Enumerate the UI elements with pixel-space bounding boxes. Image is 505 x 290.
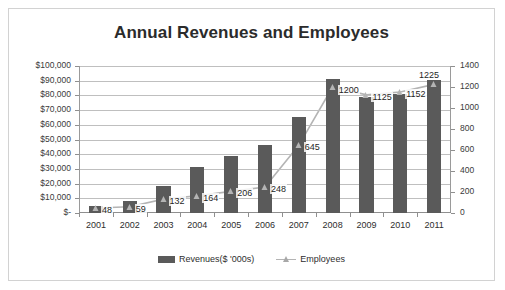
y-axis-label-right: 400 [460, 165, 474, 175]
chart-title: Annual Revenues and Employees [9, 23, 494, 43]
y-axis-label-right: 800 [460, 123, 474, 133]
y-axis-label-left: $- [13, 207, 71, 217]
x-axis-tick [282, 213, 283, 217]
x-axis-tick [316, 213, 317, 217]
x-axis-tick [383, 213, 384, 217]
y-axis-label-left: $90,000 [13, 75, 71, 85]
employees-data-label-2006: 248 [270, 184, 287, 194]
bar-2005[interactable] [224, 156, 238, 213]
y-axis-label-right: 1200 [460, 81, 479, 91]
bar-2011[interactable] [427, 80, 441, 213]
chart-legend: Revenues($ '000s) Employees [9, 254, 494, 264]
bar-2010[interactable] [393, 94, 407, 213]
x-axis-tick [147, 213, 148, 217]
x-axis-tick [350, 213, 351, 217]
y-axis-label-right: 1000 [460, 102, 479, 112]
bar-2008[interactable] [326, 79, 340, 213]
gridline [79, 81, 451, 82]
gridline [79, 66, 451, 67]
x-axis-label-2007: 2007 [282, 220, 316, 230]
employees-marker-2004[interactable] [194, 193, 200, 199]
value-axis-right [450, 66, 451, 213]
x-axis-tick [417, 213, 418, 217]
x-axis-label-2005: 2005 [214, 220, 248, 230]
x-axis-tick [248, 213, 249, 217]
bar-2009[interactable] [359, 97, 373, 213]
employees-marker-2005[interactable] [228, 188, 234, 194]
employees-data-label-2004: 164 [202, 193, 219, 203]
employees-data-label-2003: 132 [169, 196, 186, 206]
y-axis-tick-right [451, 192, 455, 193]
legend-label-revenues: Revenues($ '000s) [179, 254, 254, 264]
y-axis-label-left: $50,000 [13, 134, 71, 144]
y-axis-tick-right [451, 150, 455, 151]
x-axis-label-2002: 2002 [113, 220, 147, 230]
x-axis-tick [180, 213, 181, 217]
y-axis-label-left: $80,000 [13, 89, 71, 99]
legend-label-employees: Employees [300, 254, 345, 264]
employees-data-label-2007: 645 [304, 142, 321, 152]
y-axis-label-left: $60,000 [13, 119, 71, 129]
x-axis-label-2010: 2010 [383, 220, 417, 230]
value-axis-left [79, 66, 80, 213]
plot-area: $-$10,000$20,000$30,000$40,000$50,000$60… [79, 66, 451, 213]
bar-swatch-icon [158, 256, 175, 263]
bar-2006[interactable] [258, 145, 272, 213]
employees-data-label-2010: 1152 [405, 89, 426, 99]
y-axis-tick-right [451, 66, 455, 67]
x-axis-label-2001: 2001 [79, 220, 113, 230]
employees-marker-2010[interactable] [397, 89, 403, 95]
y-axis-label-right: 200 [460, 186, 474, 196]
employees-marker-2003[interactable] [160, 196, 166, 202]
bar-2007[interactable] [292, 117, 306, 213]
y-axis-label-left: $10,000 [13, 192, 71, 202]
y-axis-label-left: $30,000 [13, 163, 71, 173]
employees-data-label-2001: 48 [101, 205, 113, 215]
employees-data-label-2002: 59 [135, 204, 147, 214]
y-axis-label-right: 0 [460, 207, 465, 217]
employees-data-label-2009: 1125 [371, 92, 392, 102]
x-axis-label-2008: 2008 [316, 220, 350, 230]
employees-marker-2002[interactable] [126, 204, 132, 210]
x-axis-label-2009: 2009 [350, 220, 384, 230]
y-axis-label-left: $40,000 [13, 148, 71, 158]
y-axis-label-right: 600 [460, 144, 474, 154]
employees-marker-2009[interactable] [363, 92, 369, 98]
x-axis-tick [113, 213, 114, 217]
employees-data-label-2008: 1200 [338, 85, 360, 95]
y-axis-tick-right [451, 129, 455, 130]
employees-marker-2011[interactable] [431, 81, 437, 87]
y-axis-label-left: $70,000 [13, 104, 71, 114]
y-axis-label-left: $20,000 [13, 178, 71, 188]
y-axis-tick-right [451, 87, 455, 88]
employees-marker-2006[interactable] [262, 184, 268, 190]
employees-data-label-2005: 206 [236, 188, 253, 198]
x-axis-label-2011: 2011 [417, 220, 451, 230]
bar-2004[interactable] [190, 167, 204, 213]
employees-marker-2001[interactable] [92, 205, 98, 211]
y-axis-tick-right [451, 171, 455, 172]
x-axis-label-2006: 2006 [248, 220, 282, 230]
x-axis-tick [79, 213, 80, 217]
y-axis-tick-right [451, 108, 455, 109]
legend-item-employees[interactable]: Employees [276, 254, 345, 264]
employees-marker-2008[interactable] [329, 84, 335, 90]
x-axis-label-2004: 2004 [180, 220, 214, 230]
employees-marker-2007[interactable] [295, 142, 301, 148]
chart-container: Annual Revenues and Employees $-$10,000$… [8, 8, 495, 281]
y-axis-tick-right [451, 213, 455, 214]
y-axis-label-right: 1400 [460, 60, 479, 70]
y-axis-label-left: $100,000 [13, 60, 71, 70]
employees-data-label-2011: 1225 [418, 70, 440, 80]
x-axis-label-2003: 2003 [147, 220, 181, 230]
line-marker-swatch-icon [276, 255, 296, 263]
legend-item-revenues[interactable]: Revenues($ '000s) [158, 254, 254, 264]
x-axis-tick [214, 213, 215, 217]
